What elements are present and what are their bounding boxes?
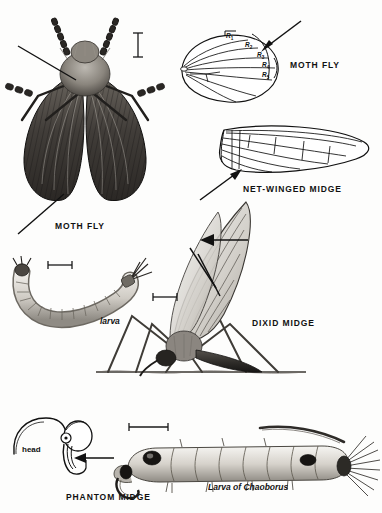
scale-bar-chaoborus [126,420,172,434]
pointer-moth-fly-vein [255,18,311,58]
scale-bar-moth-fly [130,30,146,60]
illustration-plate: MOTH FLY R1 R2 R3 R4 R5 [0,0,382,513]
label-chaoborus-larva: Larva of Chaoborus [208,482,288,492]
pointer-phantom-mouthparts [68,450,116,466]
label-moth-fly-wing: MOTH FLY [290,60,340,70]
label-net-winged-midge: NET-WINGED MIDGE [243,184,342,194]
scale-bar-dixid [150,290,182,304]
figure-dixid-midge [96,196,306,396]
label-dixid-midge: DIXID MIDGE [252,318,315,328]
dixid-midge-drawing [96,196,306,396]
pointer-moth-fly-habitus-lower [16,190,86,240]
scale-bar-larva [44,258,76,272]
label-head: head [22,445,41,454]
